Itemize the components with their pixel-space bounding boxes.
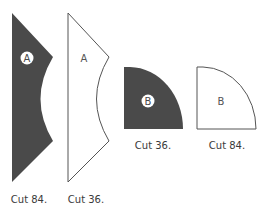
piece-a-outline-letter: A (81, 53, 88, 64)
piece-b-dark: B Cut 36. (124, 67, 183, 151)
piece-b-dark-letter: B (145, 96, 152, 107)
piece-a-outline-shape (68, 13, 109, 182)
piece-a-outline: A Cut 36. (68, 13, 109, 205)
piece-b-outline-letter: B (218, 96, 225, 107)
piece-a-dark-caption: Cut 84. (11, 194, 47, 205)
piece-b-outline: B Cut 84. (197, 67, 256, 151)
piece-a-dark: A Cut 84. (11, 13, 53, 205)
piece-b-outline-caption: Cut 84. (209, 140, 245, 151)
quilt-piece-diagram: A Cut 84. A Cut 36. B Cut 36. B Cut 84. (0, 0, 273, 213)
piece-a-dark-letter: A (24, 53, 31, 64)
piece-a-dark-shape (12, 13, 53, 182)
piece-b-dark-caption: Cut 36. (135, 140, 171, 151)
piece-b-outline-shape (197, 67, 256, 129)
piece-a-outline-caption: Cut 36. (68, 194, 104, 205)
